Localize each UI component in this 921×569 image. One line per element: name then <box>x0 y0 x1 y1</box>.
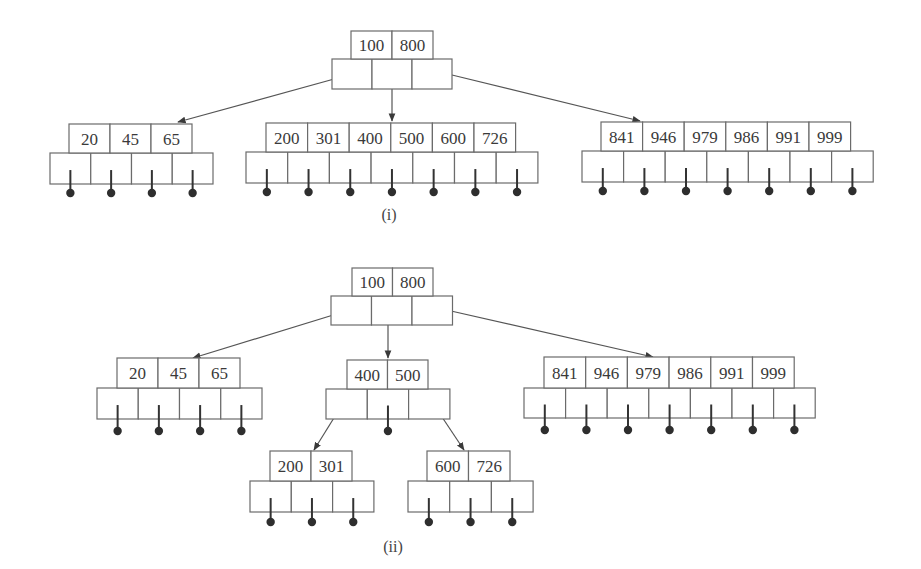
tree-diagram-ii: 1008002045654005008419469799869919992003… <box>97 268 815 556</box>
key-value: 946 <box>651 128 677 147</box>
key-value: 726 <box>477 457 503 476</box>
key-value: 100 <box>360 273 386 292</box>
b-tree-figure: 1008002045652003014005006007268419469799… <box>0 0 921 569</box>
key-value: 726 <box>482 129 508 148</box>
key-value: 500 <box>395 366 421 385</box>
null-pointer-dot-icon <box>508 518 516 526</box>
key-value: 100 <box>359 36 385 55</box>
pointer-arrow <box>178 76 345 122</box>
pointer-arrow <box>452 75 640 121</box>
key-value: 20 <box>129 364 146 383</box>
null-pointer-dot-icon <box>237 427 245 435</box>
null-pointer-dot-icon <box>308 518 316 526</box>
pointer-cell <box>372 296 413 325</box>
key-value: 500 <box>399 129 425 148</box>
null-pointer-dot-icon <box>346 188 354 196</box>
key-value: 301 <box>316 129 342 148</box>
null-pointer-dot-icon <box>388 188 396 196</box>
key-value: 991 <box>775 128 801 147</box>
tree-diagram-i: 1008002045652003014005006007268419469799… <box>50 31 873 224</box>
key-value: 600 <box>440 129 466 148</box>
diagram-caption: (ii) <box>383 538 403 556</box>
null-pointer-dot-icon <box>582 426 590 434</box>
null-pointer-dot-icon <box>384 427 392 435</box>
diagram-caption: (i) <box>381 206 396 224</box>
tree-node-leaf-600-726: 600726 <box>408 451 533 526</box>
pointer-cell <box>412 59 452 89</box>
tree-node-leaf-right: 841946979986991999 <box>524 357 815 434</box>
null-pointer-dot-icon <box>113 427 121 435</box>
null-pointer-dot-icon <box>304 188 312 196</box>
key-value: 841 <box>609 128 635 147</box>
null-pointer-dot-icon <box>640 187 648 195</box>
null-pointer-dot-icon <box>707 426 715 434</box>
null-pointer-dot-icon <box>513 188 521 196</box>
key-value: 200 <box>274 129 300 148</box>
key-value: 999 <box>761 364 787 383</box>
key-value: 979 <box>636 364 662 383</box>
pointer-cell <box>412 296 453 325</box>
tree-node-leaf-right: 841946979986991999 <box>582 122 873 195</box>
key-value: 200 <box>278 457 304 476</box>
tree-node-leaf-200-301: 200301 <box>250 451 374 526</box>
null-pointer-dot-icon <box>682 187 690 195</box>
tree-node-leaf-middle: 200301400500600726 <box>246 123 538 196</box>
tree-node-leaf-left: 204565 <box>50 124 213 197</box>
null-pointer-dot-icon <box>765 187 773 195</box>
key-value: 400 <box>355 366 381 385</box>
key-value: 65 <box>211 364 228 383</box>
key-value: 600 <box>435 457 461 476</box>
key-value: 45 <box>122 130 139 149</box>
pointer-cell <box>326 389 367 419</box>
null-pointer-dot-icon <box>471 188 479 196</box>
key-value: 45 <box>170 364 187 383</box>
null-pointer-dot-icon <box>665 426 673 434</box>
key-value: 979 <box>692 128 718 147</box>
key-value: 301 <box>319 457 345 476</box>
null-pointer-dot-icon <box>196 427 204 435</box>
null-pointer-dot-icon <box>266 518 274 526</box>
null-pointer-dot-icon <box>624 426 632 434</box>
null-pointer-dot-icon <box>807 187 815 195</box>
null-pointer-dot-icon <box>466 518 474 526</box>
key-value: 999 <box>817 128 843 147</box>
pointer-cell <box>409 389 450 419</box>
key-value: 991 <box>719 364 745 383</box>
null-pointer-dot-icon <box>749 426 757 434</box>
key-value: 400 <box>357 129 383 148</box>
tree-node-root: 100800 <box>331 268 453 325</box>
key-value: 65 <box>163 130 180 149</box>
key-value: 986 <box>677 364 703 383</box>
tree-node-root: 100800 <box>332 31 452 89</box>
key-value: 20 <box>81 130 98 149</box>
null-pointer-dot-icon <box>599 187 607 195</box>
null-pointer-dot-icon <box>155 427 163 435</box>
null-pointer-dot-icon <box>425 518 433 526</box>
pointer-cell <box>331 296 372 325</box>
key-value: 986 <box>734 128 760 147</box>
null-pointer-dot-icon <box>848 187 856 195</box>
pointer-cell <box>332 59 372 89</box>
pointer-arrow <box>451 311 653 357</box>
tree-node-leaf-left: 204565 <box>97 358 262 435</box>
null-pointer-dot-icon <box>263 188 271 196</box>
key-value: 946 <box>594 364 620 383</box>
null-pointer-dot-icon <box>107 189 115 197</box>
null-pointer-dot-icon <box>541 426 549 434</box>
null-pointer-dot-icon <box>66 189 74 197</box>
null-pointer-dot-icon <box>148 189 156 197</box>
pointer-cell <box>372 59 412 89</box>
key-value: 841 <box>552 364 578 383</box>
key-value: 800 <box>400 36 426 55</box>
pointer-arrow <box>193 312 343 358</box>
null-pointer-dot-icon <box>188 189 196 197</box>
null-pointer-dot-icon <box>349 518 357 526</box>
null-pointer-dot-icon <box>723 187 731 195</box>
null-pointer-dot-icon <box>429 188 437 196</box>
key-value: 800 <box>400 273 426 292</box>
null-pointer-dot-icon <box>790 426 798 434</box>
tree-node-internal-middle: 400500 <box>326 360 450 435</box>
